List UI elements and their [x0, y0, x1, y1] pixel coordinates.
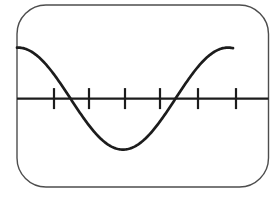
oscilloscope-screen [0, 0, 274, 198]
oscilloscope-figure [0, 0, 274, 198]
